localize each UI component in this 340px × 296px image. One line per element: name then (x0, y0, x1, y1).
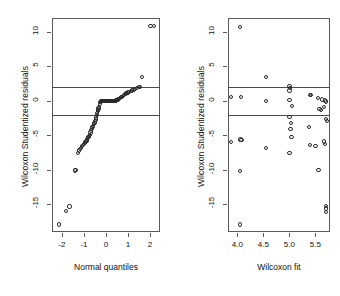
data-point (287, 115, 291, 119)
y-axis-tick-label: 5 (207, 54, 216, 76)
data-point (57, 222, 61, 226)
plot-frame (228, 18, 330, 232)
reference-line (52, 87, 160, 88)
x-axis-tick (263, 233, 264, 237)
data-point (322, 105, 326, 109)
reference-line (228, 115, 330, 116)
residual-fit-panel: 1050-5-10-154.04.55.05.5Wilcoxon fitWilc… (170, 0, 340, 296)
y-axis-tick-label: -10 (31, 157, 40, 179)
x-axis-tick (150, 233, 151, 237)
y-axis-tick-label: 10 (31, 19, 40, 41)
data-point (239, 138, 243, 142)
data-point (324, 99, 328, 103)
x-axis-tick-label: 2 (137, 240, 163, 249)
y-axis-tick (47, 32, 51, 33)
data-point (324, 210, 328, 214)
x-axis-tick (106, 233, 107, 237)
x-axis-tick (289, 233, 290, 237)
data-point (73, 168, 77, 172)
y-axis-tick (47, 204, 51, 205)
data-point (288, 127, 292, 131)
y-axis-tick-label: 10 (207, 19, 216, 41)
y-axis-tick (47, 170, 51, 171)
x-axis-tick (128, 233, 129, 237)
y-axis-tick (47, 66, 51, 67)
qq-plot-panel: 1050-5-10-15-2-1012Normal quantilesWilco… (0, 0, 170, 296)
y-axis-tick (223, 135, 227, 136)
data-point (140, 75, 144, 79)
x-axis-label: Normal quantiles (52, 262, 160, 272)
data-point (287, 88, 291, 92)
x-axis-tick (84, 233, 85, 237)
y-axis-tick-label: -5 (207, 123, 216, 145)
data-point (67, 204, 71, 208)
data-point (264, 75, 268, 79)
data-point (289, 121, 293, 125)
x-axis-tick-label: 5.0 (276, 240, 302, 249)
x-axis-tick (62, 233, 63, 237)
y-axis-tick-label: 0 (31, 88, 40, 110)
y-axis-tick-label: -10 (207, 157, 216, 179)
data-point (289, 135, 293, 139)
x-axis-tick-label: 4.5 (250, 240, 276, 249)
reference-line (52, 115, 160, 116)
y-axis-label: Wilcoxon Studentized residuals (20, 66, 30, 187)
reference-line (228, 87, 330, 88)
data-point (238, 222, 242, 226)
figure-root: 1050-5-10-15-2-1012Normal quantilesWilco… (0, 0, 340, 296)
x-axis-tick (237, 233, 238, 237)
x-axis-tick-label: 4.0 (224, 240, 250, 249)
x-axis-tick (315, 233, 316, 237)
data-point (229, 140, 233, 144)
y-axis-tick-label: -15 (207, 192, 216, 214)
y-axis-tick (223, 66, 227, 67)
y-axis-tick (223, 101, 227, 102)
data-point (264, 146, 268, 150)
y-axis-tick-label: 5 (31, 54, 40, 76)
y-axis-tick (47, 135, 51, 136)
x-axis-tick-label: 5.5 (302, 240, 328, 249)
y-axis-tick-label: -5 (31, 123, 40, 145)
y-axis-tick (223, 32, 227, 33)
y-axis-tick-label: -15 (31, 192, 40, 214)
data-point (264, 99, 268, 103)
data-point (316, 168, 320, 172)
y-axis-tick (47, 101, 51, 102)
data-point (287, 98, 291, 102)
data-point (287, 151, 291, 155)
data-point (325, 119, 329, 123)
data-point (239, 95, 243, 99)
plot-frame (52, 18, 160, 232)
y-axis-tick (223, 170, 227, 171)
y-axis-label: Wilcoxon Studentized residuals (196, 66, 206, 187)
x-axis-label: Wilcoxon fit (228, 262, 330, 272)
y-axis-tick (223, 204, 227, 205)
y-axis-tick-label: 0 (207, 88, 216, 110)
